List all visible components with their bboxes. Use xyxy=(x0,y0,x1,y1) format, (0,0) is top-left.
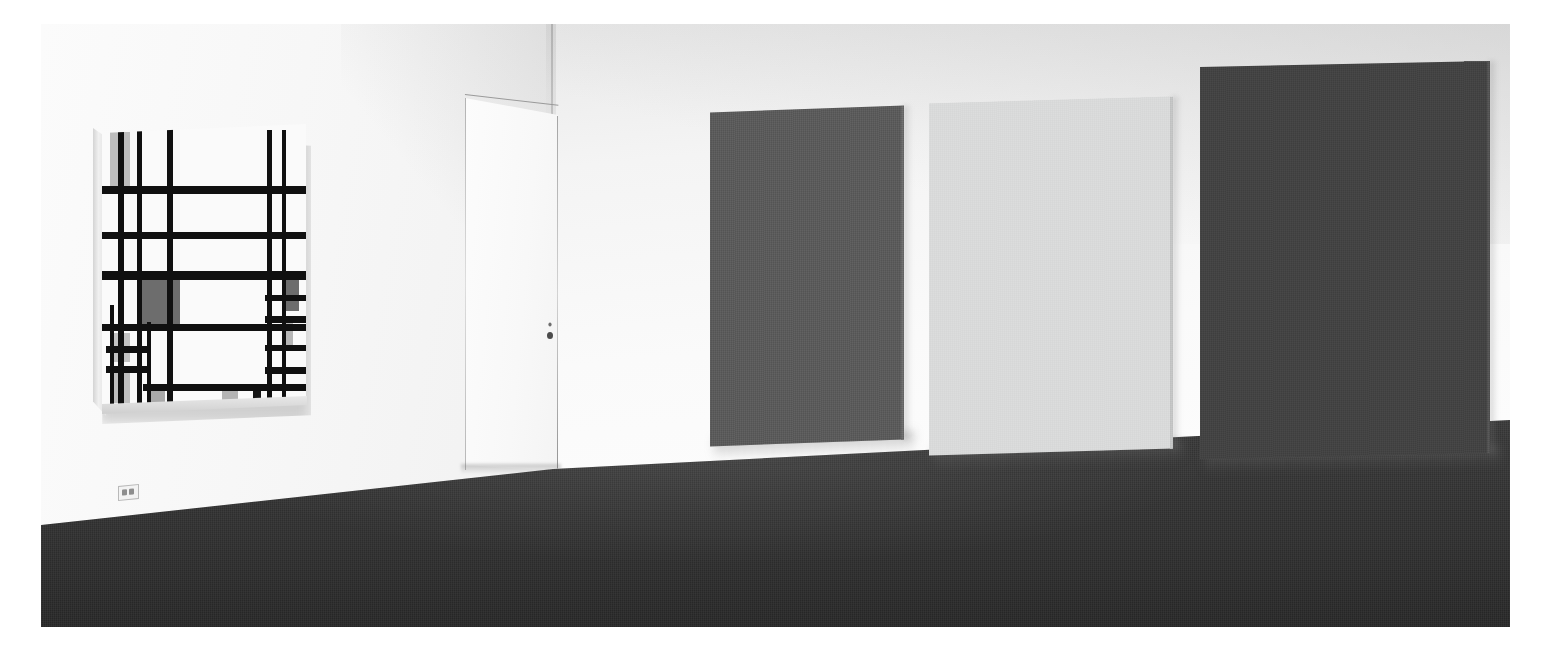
artwork-monochrome-right[interactable] xyxy=(1200,61,1490,459)
mondrian-vline-7 xyxy=(147,322,151,407)
artwork-mondrian-grid[interactable] xyxy=(93,124,306,417)
mondrian-hline-2 xyxy=(102,232,306,239)
artwork-monochrome-left[interactable] xyxy=(710,106,904,447)
monochrome-center-canvas-texture xyxy=(929,97,1173,456)
monochrome-right-canvas-texture xyxy=(1200,61,1490,459)
door-left-edge xyxy=(465,98,466,470)
gallery-door[interactable] xyxy=(465,93,558,471)
mondrian-hline-9 xyxy=(265,316,306,322)
monochrome-center-side-shadow xyxy=(1172,96,1180,448)
mondrian-hline-3 xyxy=(102,271,306,279)
mondrian-vline-2 xyxy=(137,124,142,407)
mondrian-vline-6 xyxy=(110,305,114,407)
monochrome-left-face xyxy=(710,106,904,447)
monochrome-center-face xyxy=(929,97,1173,456)
mondrian-vline-1 xyxy=(118,124,123,407)
screenshot-root xyxy=(0,0,1550,652)
door-right-edge xyxy=(557,116,558,471)
mondrian-hline-11 xyxy=(265,367,306,373)
monochrome-right-side-shadow xyxy=(1489,61,1497,453)
outlet-slot-left xyxy=(122,489,127,496)
mondrian-canvas-face xyxy=(102,124,306,407)
door-keyhole-icon[interactable] xyxy=(547,332,553,339)
mondrian-vline-4 xyxy=(267,130,271,407)
mondrian-hline-6 xyxy=(106,366,151,373)
mondrian-hline-10 xyxy=(265,345,306,351)
mondrian-vline-5 xyxy=(282,130,286,407)
monochrome-left-canvas-texture xyxy=(710,106,904,447)
mondrian-hline-8 xyxy=(265,295,306,301)
mondrian-hline-5 xyxy=(106,346,151,353)
mondrian-hline-1 xyxy=(102,186,306,194)
outlet-slot-right xyxy=(129,488,134,495)
monochrome-right-face xyxy=(1200,61,1490,459)
gallery-photograph xyxy=(41,24,1510,627)
artwork-monochrome-center[interactable] xyxy=(929,97,1173,456)
mondrian-hline-4 xyxy=(102,324,306,332)
wall-outlet-icon xyxy=(118,484,139,501)
mondrian-vline-3 xyxy=(167,124,172,407)
monochrome-left-side-shadow xyxy=(903,105,911,439)
mondrian-hline-7 xyxy=(143,384,306,391)
